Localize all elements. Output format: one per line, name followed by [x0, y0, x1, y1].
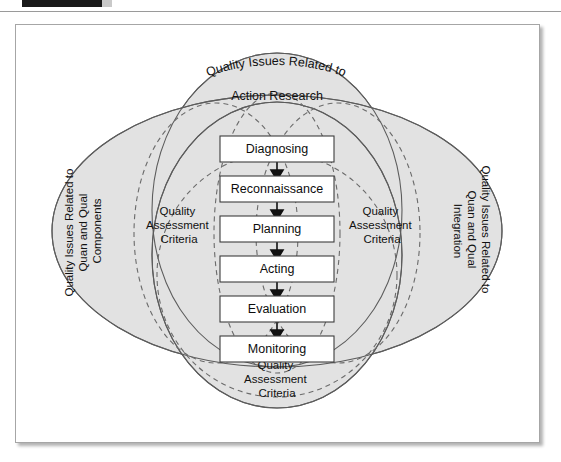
header-black-tab — [22, 0, 102, 7]
venn-top-straight-label: Action Research — [231, 89, 323, 103]
cycle-step-monitoring: Monitoring — [220, 336, 334, 362]
cycle-step-acting: Acting — [220, 256, 334, 282]
cycle-step-planning: Planning — [220, 216, 334, 242]
svg-text:Reconnaissance: Reconnaissance — [231, 182, 323, 196]
figure-frame: Quality Issues Related to Action Researc… — [15, 24, 540, 443]
venn-cycle-diagram: Quality Issues Related to Action Researc… — [16, 25, 539, 442]
cycle-step-evaluation: Evaluation — [220, 296, 334, 322]
svg-text:Planning: Planning — [253, 222, 302, 236]
svg-text:Evaluation: Evaluation — [248, 302, 306, 316]
cycle-step-diagnosing: Diagnosing — [220, 136, 334, 162]
svg-text:Monitoring: Monitoring — [248, 342, 306, 356]
header-rule-divider — [0, 11, 561, 12]
svg-text:Diagnosing: Diagnosing — [246, 142, 309, 156]
header-gray-tab — [102, 0, 112, 7]
cycle-step-reconnaissance: Reconnaissance — [220, 176, 334, 202]
page-header-strip — [0, 0, 561, 12]
svg-text:Acting: Acting — [260, 262, 295, 276]
figure-page: Quality Issues Related to Action Researc… — [0, 0, 561, 462]
